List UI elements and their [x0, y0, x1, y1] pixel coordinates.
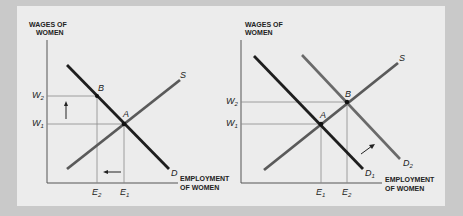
- svg-text:W2: W2: [226, 96, 239, 107]
- supply-demand-charts: WAGES OF WOMEN EMPLOYMENT OF WOMEN W2 W1…: [0, 0, 463, 216]
- x-axis-label-1: EMPLOYMENT: [385, 176, 435, 183]
- label-s: S: [399, 53, 405, 63]
- point-b: [95, 94, 99, 98]
- point-a: [122, 122, 127, 127]
- y-axis-label-2: WOMEN: [36, 29, 64, 36]
- svg-text:W1: W1: [226, 118, 238, 129]
- x-axis-label-2: OF WOMEN: [180, 184, 219, 191]
- label-b: B: [98, 83, 104, 93]
- svg-text:D1: D1: [365, 168, 375, 179]
- arrow-up-icon: [64, 101, 68, 106]
- label-a: A: [122, 109, 129, 119]
- point-b: [345, 100, 350, 105]
- svg-text:W1: W1: [32, 118, 44, 129]
- label-s: S: [180, 70, 186, 80]
- svg-text:E2: E2: [92, 187, 102, 198]
- label-b: B: [345, 89, 351, 99]
- demand-curve-d2: [302, 55, 400, 159]
- label-d: D: [171, 168, 178, 178]
- arrow-up-right-icon: [369, 144, 375, 149]
- left-chart: WAGES OF WOMEN EMPLOYMENT OF WOMEN W2 W1…: [29, 21, 230, 198]
- svg-text:D2: D2: [403, 158, 414, 169]
- x-axis-label-2: OF WOMEN: [385, 185, 424, 192]
- y-axis-label-1: WAGES OF: [245, 21, 283, 28]
- label-a: A: [319, 110, 326, 120]
- y-axis-label-1: WAGES OF: [29, 21, 67, 28]
- arrow-left-icon: [103, 170, 108, 174]
- demand-curve: [67, 65, 169, 169]
- supply-curve: [264, 63, 398, 170]
- x-axis-label-1: EMPLOYMENT: [180, 175, 230, 182]
- svg-text:E2: E2: [342, 187, 352, 198]
- svg-text:E1: E1: [120, 187, 129, 198]
- svg-text:W2: W2: [32, 90, 45, 101]
- right-chart: WAGES OF WOMEN EMPLOYMENT OF WOMEN W2 W1…: [226, 21, 435, 198]
- svg-text:E1: E1: [316, 187, 325, 198]
- point-a: [319, 122, 324, 127]
- y-axis-label-2: WOMEN: [245, 29, 273, 36]
